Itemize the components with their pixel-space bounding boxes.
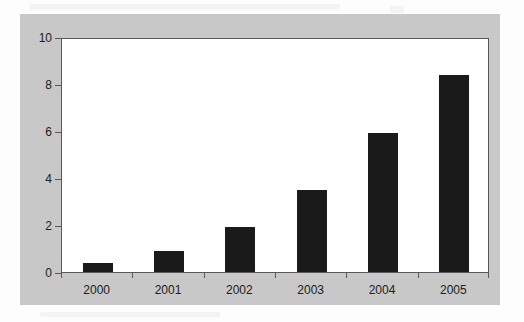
x-axis-tick-label-2004: 2004 xyxy=(369,282,396,298)
plot-area xyxy=(62,39,488,272)
y-axis: 0246810 xyxy=(20,14,61,305)
x-axis-tick-label-2001: 2001 xyxy=(155,282,182,298)
x-axis-tick-label-2000: 2000 xyxy=(83,282,110,298)
bar-2005 xyxy=(439,75,469,272)
x-axis-tick-mark xyxy=(418,273,419,278)
x-axis-tick-label-2005: 2005 xyxy=(440,282,467,298)
x-axis-tick-label-2003: 2003 xyxy=(297,282,324,298)
y-axis-tick-label: 8 xyxy=(45,77,52,93)
y-axis-tick-label: 6 xyxy=(45,124,52,140)
scanned-page-background: 0246810 200020012002200320042005 xyxy=(0,0,524,322)
bar-2001 xyxy=(154,251,184,272)
bar-2003 xyxy=(297,190,327,272)
page-bleed-through-mark xyxy=(30,4,340,10)
x-axis-tick-mark xyxy=(488,273,489,278)
x-axis-tick-mark xyxy=(132,273,133,278)
plot-frame xyxy=(61,38,489,273)
y-axis-tick-label: 0 xyxy=(45,265,52,281)
x-axis-tick-mark xyxy=(61,273,62,278)
x-axis-tick-mark xyxy=(346,273,347,278)
y-axis-tick-label: 10 xyxy=(39,30,52,46)
x-axis-tick-mark xyxy=(204,273,205,278)
x-axis-tick-label-2002: 2002 xyxy=(226,282,253,298)
page-bleed-through-mark xyxy=(390,6,404,13)
x-axis-tick-mark xyxy=(275,273,276,278)
bar-2002 xyxy=(225,227,255,272)
y-axis-tick-label: 4 xyxy=(45,171,52,187)
chart-figure-panel: 0246810 200020012002200320042005 xyxy=(20,14,500,305)
page-bleed-through-mark xyxy=(40,312,220,317)
bar-2000 xyxy=(83,263,113,272)
x-axis: 200020012002200320042005 xyxy=(61,273,489,305)
y-axis-tick-label: 2 xyxy=(45,218,52,234)
bar-2004 xyxy=(368,133,398,272)
